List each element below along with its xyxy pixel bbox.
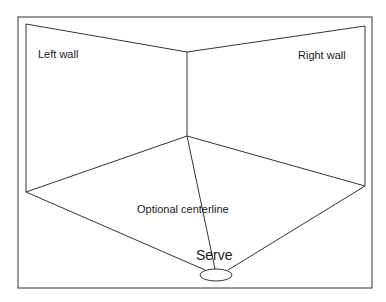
right-floor-back-edge	[187, 136, 365, 186]
right-floor-diagonal	[228, 186, 365, 270]
right-wall-label: Right wall	[298, 50, 346, 61]
left-wall-label: Left wall	[38, 49, 78, 60]
room-diagram	[0, 0, 386, 302]
left-floor-back-edge	[26, 136, 187, 192]
centerline-label: Optional centerline	[137, 204, 229, 215]
serve-label: Serve	[196, 248, 233, 262]
serve-spot	[200, 269, 232, 281]
